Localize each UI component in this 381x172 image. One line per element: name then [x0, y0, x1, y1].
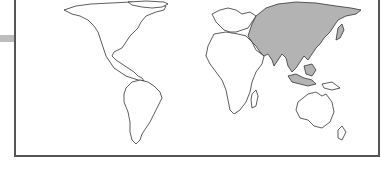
island-new-zealand [338, 126, 346, 140]
region-asia[interactable] [248, 2, 361, 72]
island-borneo [304, 64, 316, 76]
region-oceania[interactable] [296, 92, 334, 128]
world-map [16, 0, 378, 155]
side-tab [0, 35, 14, 42]
island-japan [336, 24, 344, 40]
region-europe[interactable] [212, 8, 256, 32]
region-north-america[interactable] [64, 2, 166, 81]
island-madagascar [251, 90, 258, 108]
island-new-guinea [322, 82, 340, 90]
region-south-america[interactable] [124, 80, 162, 144]
map-frame [14, 0, 380, 157]
